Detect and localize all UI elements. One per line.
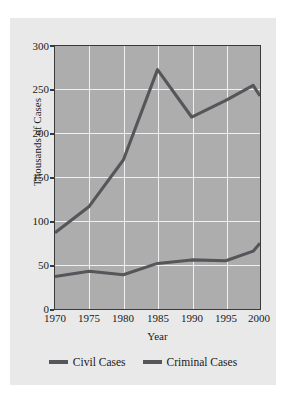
y-axis-title: Thousands of Cases (31, 67, 43, 217)
x-tick-label: 2000 (248, 313, 270, 324)
x-tick-label: 1980 (112, 313, 134, 324)
legend-item-criminal-cases: Criminal Cases (143, 356, 238, 368)
x-tick-label: 1985 (147, 313, 169, 324)
legend-swatch-icon (49, 360, 68, 364)
legend-item-civil-cases: Civil Cases (49, 356, 126, 368)
y-tick-label: 200 (10, 128, 49, 139)
line-chart-figure: 300 250 200 150 100 50 0 Thousands of Ca… (10, 18, 276, 385)
y-tick-label: 150 (10, 172, 49, 183)
x-tick-label: 1975 (78, 313, 100, 324)
y-tick-label: 300 (10, 41, 49, 52)
plot-area (54, 45, 261, 310)
series-line-civil-cases (55, 70, 260, 233)
legend-label: Criminal Cases (167, 356, 238, 368)
x-tick-label: 1970 (44, 313, 66, 324)
chart-legend: Civil Cases Criminal Cases (10, 356, 276, 368)
series-lines (55, 46, 260, 309)
x-tick-label: 1995 (215, 313, 237, 324)
legend-swatch-icon (143, 360, 162, 364)
x-tick-label: 1990 (181, 313, 203, 324)
y-tick-label: 250 (10, 84, 49, 95)
series-line-criminal-cases (55, 243, 260, 276)
chart-card: 300 250 200 150 100 50 0 Thousands of Ca… (10, 18, 276, 385)
y-tick-label: 100 (10, 216, 49, 227)
x-axis-title: Year (54, 330, 261, 342)
y-tick-label: 50 (10, 260, 49, 271)
legend-label: Civil Cases (73, 356, 126, 368)
